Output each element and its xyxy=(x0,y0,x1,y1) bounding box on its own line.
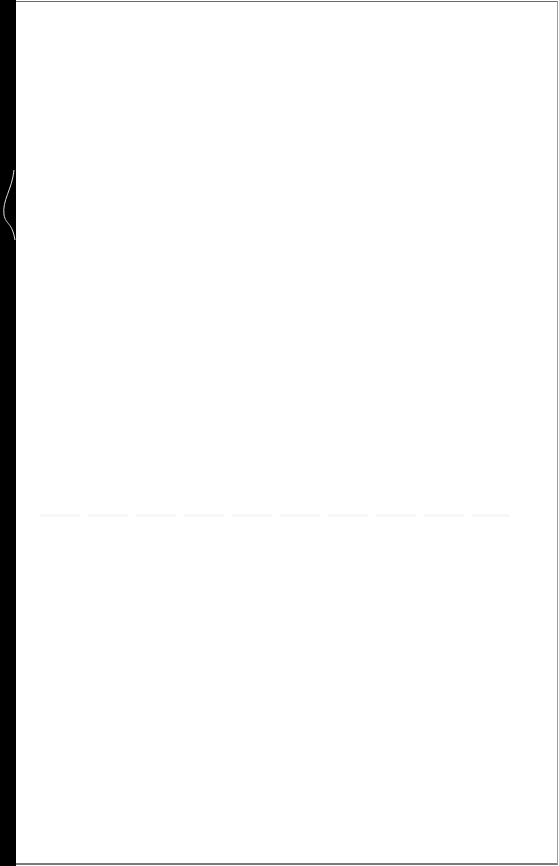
binding-crease-mark xyxy=(2,170,16,240)
blank-page xyxy=(16,1,558,865)
scan-binding-edge xyxy=(0,0,16,866)
bleed-through-text xyxy=(40,514,510,517)
